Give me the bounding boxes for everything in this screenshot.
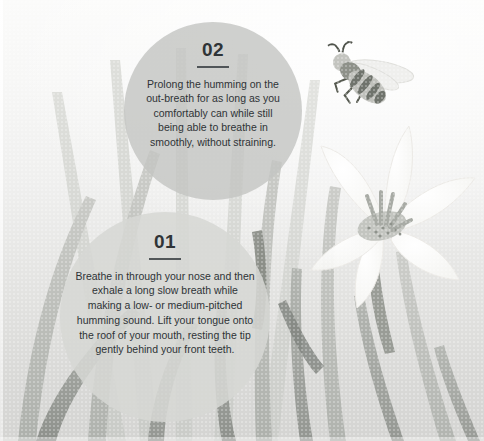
step-bubble-01: 01 Breathe in through your nose and then… <box>60 212 270 422</box>
infographic-canvas: 02 Prolong the humming on the out-breath… <box>0 0 484 441</box>
step-body-01: Breathe in through your nose and then ex… <box>74 269 256 358</box>
step-number-02: 02 <box>202 40 224 59</box>
step-body-02: Prolong the humming on the out-breath fo… <box>140 77 286 150</box>
bottom-edge-highlight <box>0 437 484 441</box>
step-divider-01 <box>149 258 181 260</box>
step-divider-02 <box>197 66 229 68</box>
step-number-01: 01 <box>154 232 176 251</box>
left-edge-highlight <box>0 0 3 441</box>
step-bubble-02: 02 Prolong the humming on the out-breath… <box>124 22 302 200</box>
